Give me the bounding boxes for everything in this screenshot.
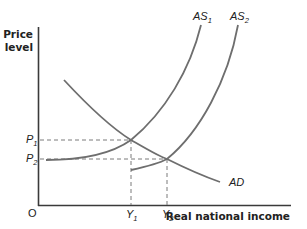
as1-label: AS1 bbox=[192, 10, 212, 25]
x-axis-label: Real national income bbox=[166, 210, 290, 222]
y2-label-subscript: 2 bbox=[168, 214, 174, 223]
as1-label-text: AS bbox=[192, 10, 208, 22]
p1-label: P1 bbox=[26, 133, 38, 148]
y-axis-label-line2: level bbox=[5, 41, 33, 53]
y1-label: Y1 bbox=[126, 208, 138, 223]
ad-label: AD bbox=[228, 176, 244, 188]
as1-label-subscript: 1 bbox=[208, 16, 212, 25]
p2-label-subscript: 2 bbox=[32, 158, 38, 167]
y1-label-subscript: 1 bbox=[133, 214, 137, 223]
as2-label-text: AS bbox=[229, 10, 245, 22]
as-ad-diagram: Price level Real national income O AS1 A… bbox=[0, 0, 307, 229]
as2-label-subscript: 2 bbox=[244, 16, 250, 25]
p2-label: P2 bbox=[26, 152, 38, 167]
p1-label-subscript: 1 bbox=[33, 139, 37, 148]
origin-label: O bbox=[28, 207, 37, 219]
as2-label: AS2 bbox=[229, 10, 250, 25]
y-axis-label-line1: Price bbox=[3, 28, 33, 40]
